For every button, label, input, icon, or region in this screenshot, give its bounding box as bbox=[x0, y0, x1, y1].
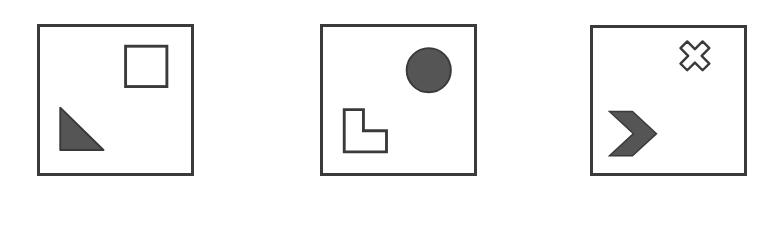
panel-1-shapes bbox=[40, 27, 191, 173]
panel-2 bbox=[320, 24, 477, 176]
triangle-filled-icon bbox=[60, 108, 103, 150]
chevron-right-filled-icon bbox=[609, 112, 656, 156]
panel-3-shapes bbox=[593, 28, 744, 173]
panel-1 bbox=[37, 24, 194, 176]
cross-outline-icon bbox=[681, 41, 710, 70]
square-outline-icon bbox=[126, 46, 167, 86]
panel-3 bbox=[590, 25, 747, 176]
circle-filled-icon bbox=[407, 48, 451, 92]
panel-2-shapes bbox=[323, 27, 474, 173]
l-shape-outline-icon bbox=[344, 110, 386, 152]
